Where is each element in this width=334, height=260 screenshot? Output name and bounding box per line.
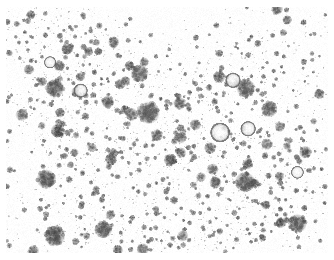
micrograph-field: [6, 7, 328, 253]
micrograph-viewport: [0, 0, 334, 260]
cell-culture-rendering: [6, 7, 328, 253]
